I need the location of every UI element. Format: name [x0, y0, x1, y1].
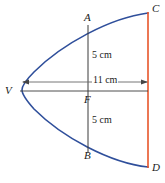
point-label-d: D: [152, 162, 160, 173]
dimension-label-lower-5cm: 5 cm: [91, 115, 113, 125]
parabola-figure: A B C D V F 5 cm 11 cm 5 cm: [0, 0, 165, 183]
point-label-a: A: [84, 12, 91, 23]
point-label-c: C: [152, 3, 159, 14]
arrowhead-left-icon: [22, 79, 29, 84]
parabola-curve: [22, 13, 148, 167]
point-label-v: V: [5, 85, 12, 96]
arrowhead-right-icon: [141, 79, 148, 84]
figure-canvas: [0, 0, 165, 183]
dimension-label-upper-5cm: 5 cm: [91, 50, 113, 60]
point-label-b: B: [84, 150, 91, 161]
dimension-label-11cm: 11 cm: [92, 75, 118, 85]
point-label-f: F: [84, 94, 91, 105]
